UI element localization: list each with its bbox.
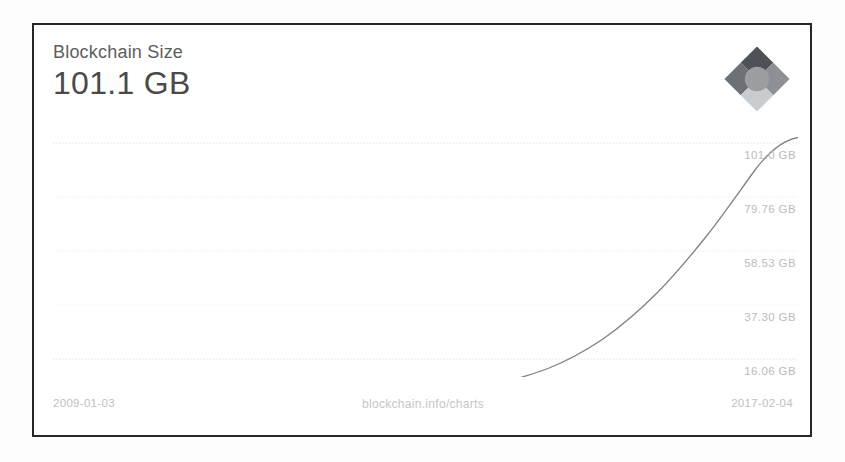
current-value: 101.1 GB <box>53 64 523 102</box>
page-title: Blockchain Size <box>53 41 523 63</box>
x-axis-end-date: 2017-02-04 <box>731 397 793 409</box>
screenshot-root: Blockchain Size 101.1 GB <box>0 0 845 462</box>
chart-card: Blockchain Size 101.1 GB <box>32 23 812 437</box>
chart-plot-area: 101.0 GB 79.76 GB 58.53 GB 37.30 GB 16.0… <box>53 137 798 377</box>
chart-footer: 2009-01-03 blockchain.info/charts 2017-0… <box>53 397 793 413</box>
blockchain-diamond-logo-icon <box>721 43 793 115</box>
chart-gridlines <box>53 143 798 359</box>
chart-card-inner: Blockchain Size 101.1 GB <box>34 25 810 435</box>
chart-svg <box>53 137 798 377</box>
source-attribution: blockchain.info/charts <box>362 397 484 411</box>
x-axis-start-date: 2009-01-03 <box>53 397 115 409</box>
chart-header: Blockchain Size 101.1 GB <box>53 41 523 102</box>
chart-line-series <box>53 138 798 378</box>
